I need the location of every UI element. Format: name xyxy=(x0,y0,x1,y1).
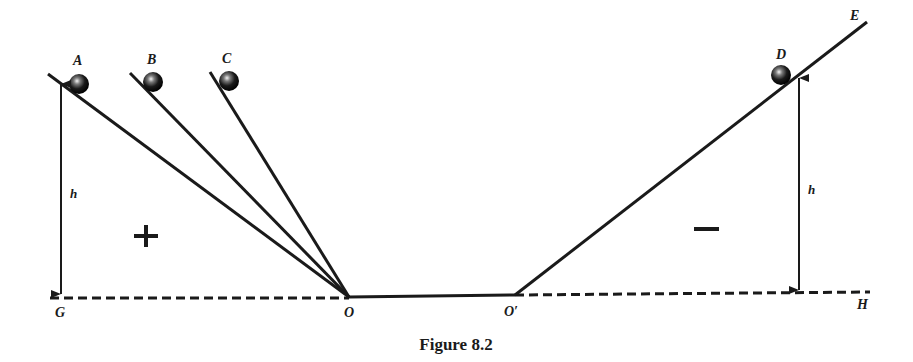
ball-a xyxy=(69,74,89,94)
baseline-right-dashed xyxy=(515,292,870,295)
ball-c xyxy=(219,71,239,91)
label-d: D xyxy=(775,47,786,62)
ball-b xyxy=(143,72,163,92)
incline-e xyxy=(515,22,867,295)
plus-sign xyxy=(134,225,158,247)
ball-d xyxy=(771,65,791,85)
label-e: E xyxy=(849,8,859,23)
flat-segment-o-oprime xyxy=(349,295,515,297)
figure-caption: Figure 8.2 xyxy=(419,335,492,354)
label-o-prime: O′ xyxy=(504,304,518,319)
label-h-point: H xyxy=(856,297,869,312)
label-c: C xyxy=(222,51,232,66)
label-height-right: h xyxy=(808,182,815,197)
label-a: A xyxy=(72,53,82,68)
figure-canvas: A B C D E G O O′ H h h Figure 8.2 xyxy=(0,0,913,362)
incline-c xyxy=(210,72,349,297)
label-b: B xyxy=(146,52,156,67)
label-g: G xyxy=(55,305,65,320)
incline-b xyxy=(130,73,349,297)
incline-a xyxy=(48,74,349,297)
label-o: O xyxy=(344,305,354,320)
label-height-left: h xyxy=(70,186,77,201)
